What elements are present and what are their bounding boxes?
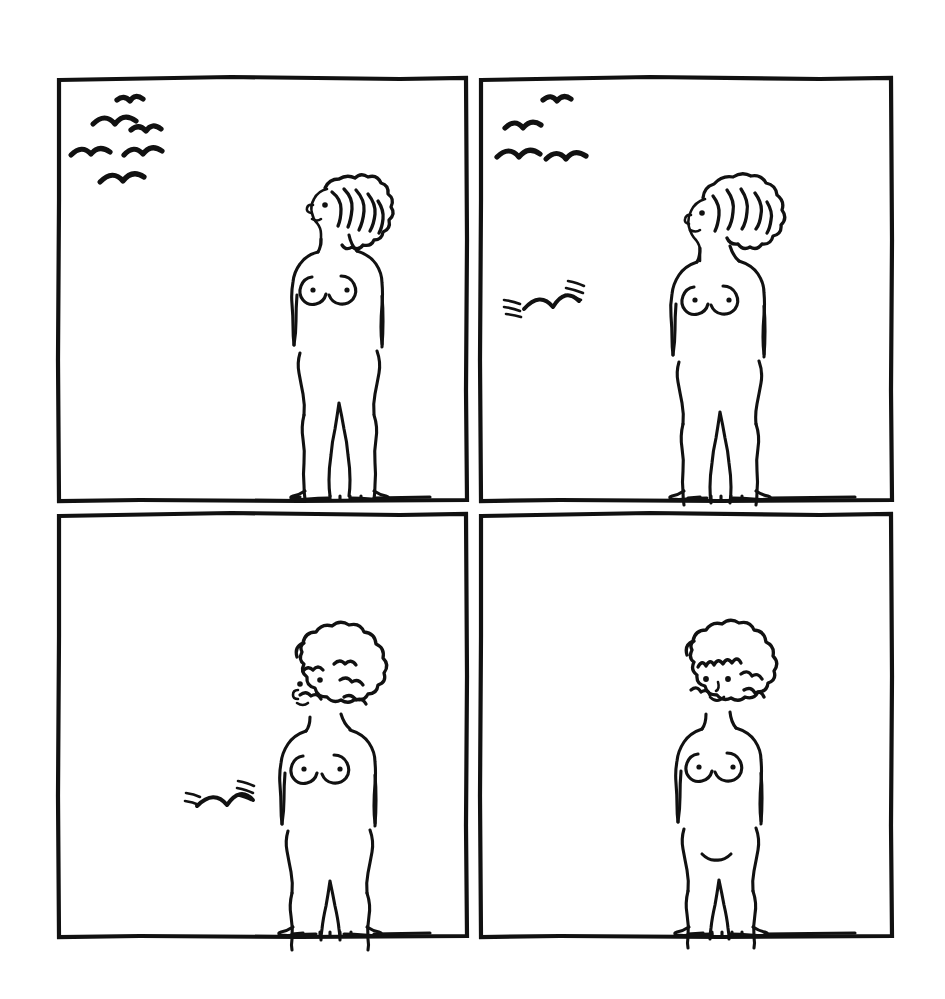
arm-right [764, 306, 765, 357]
eye-dot [297, 681, 303, 687]
mouth [312, 219, 321, 221]
nipple-dot [344, 287, 349, 292]
nipple-dot [726, 297, 731, 302]
comic-canvas [0, 0, 945, 999]
leg-left-outer [290, 893, 292, 950]
eye-dot [699, 210, 705, 216]
nipple-dot [730, 764, 735, 769]
arm-right [382, 296, 383, 347]
eye-dot [322, 202, 328, 208]
eye-dot [725, 676, 731, 682]
arm-right [375, 775, 376, 826]
nipple-dot [337, 766, 342, 771]
nipple-dot [692, 297, 697, 302]
nipple-dot [310, 287, 315, 292]
mouth [690, 230, 700, 232]
nipple-dot [696, 764, 701, 769]
eye-dot [317, 677, 323, 683]
arm-right [761, 773, 762, 824]
eye-dot [703, 676, 709, 682]
leg-left-outer [686, 891, 688, 948]
nipple-dot [301, 766, 306, 771]
comic-page: Four-panel pen-and-ink comic strip A nud… [0, 0, 945, 999]
